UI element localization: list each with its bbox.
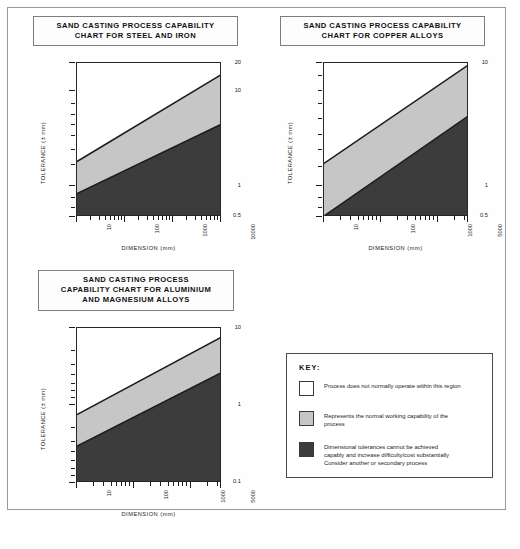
chart-title-line-1: SAND CASTING PROCESS xyxy=(41,275,231,285)
chart-title-line-2: CHART FOR COPPER ALLOYS xyxy=(283,31,482,41)
page-frame: SAND CASTING PROCESS CAPABILITY CHART FO… xyxy=(7,7,506,510)
x-axis-title: DIMENSION (mm) xyxy=(323,245,468,251)
chart-title-steel-and-iron: SAND CASTING PROCESS CAPABILITY CHART FO… xyxy=(33,16,238,46)
xtick-label: 10000 xyxy=(250,224,256,250)
key-item-line: Consider another or secondary process xyxy=(324,459,449,467)
capability-regions-steel-and-iron xyxy=(77,63,221,216)
capability-regions-copper-alloys xyxy=(324,63,468,216)
ytick-label: 10 xyxy=(197,324,241,330)
key-item-text: Process does not normally operate within… xyxy=(324,381,461,390)
ytick-label: 0.5 xyxy=(444,212,488,218)
key-item-line: Represents the normal working capability… xyxy=(324,412,448,420)
chart-title-copper-alloys: SAND CASTING PROCESS CAPABILITY CHART FO… xyxy=(280,16,485,46)
chart-title-aluminium-and-magnesium-alloys: SAND CASTING PROCESS CAPABILITY CHART FO… xyxy=(38,270,234,311)
key-heading: KEY: xyxy=(299,363,321,372)
key-item-dark-gray: Dimensional tolerances cannot be achieve… xyxy=(299,442,449,468)
plot-area-copper-alloys xyxy=(323,62,468,216)
y-axis-title: TOLERANCE (± mm) xyxy=(40,122,46,184)
key-item-white: Process does not normally operate within… xyxy=(299,381,461,396)
ytick-label: 1 xyxy=(197,182,241,188)
ytick-label: 0.5 xyxy=(197,212,241,218)
chart-panel-steel-and-iron: SAND CASTING PROCESS CAPABILITY CHART FO… xyxy=(26,16,241,256)
y-axis-title: TOLERANCE (± mm) xyxy=(287,122,293,184)
ytick-label: 20 xyxy=(197,59,241,65)
key-item-light-gray: Represents the normal working capability… xyxy=(299,411,448,428)
key-item-line: process xyxy=(324,420,448,428)
chart-title-line-1: SAND CASTING PROCESS CAPABILITY xyxy=(36,21,235,31)
plot-area-steel-and-iron xyxy=(76,62,221,216)
xtick-label: 5000 xyxy=(497,224,503,250)
x-axis-title: DIMENSION (mm) xyxy=(76,511,221,517)
chart-title-line-2: CAPABILITY CHART FOR ALUMINIUM xyxy=(41,285,231,295)
swatch-dark-gray-icon xyxy=(299,442,314,457)
ytick-label: 10 xyxy=(444,59,488,65)
chart-panel-copper-alloys: SAND CASTING PROCESS CAPABILITY CHART FO… xyxy=(273,16,488,256)
y-axis-title: TOLERANCE (± mm) xyxy=(40,388,46,450)
chart-panel-aluminium-and-magnesium-alloys: SAND CASTING PROCESS CAPABILITY CHART FO… xyxy=(26,270,241,510)
ytick-label: 1 xyxy=(444,182,488,188)
swatch-white-icon xyxy=(299,381,314,396)
ytick-label: 0.1 xyxy=(197,478,241,484)
ytick-label: 1 xyxy=(197,401,241,407)
key-item-text: Represents the normal working capability… xyxy=(324,411,448,428)
ytick-label: 10 xyxy=(197,87,241,93)
chart-title-line-1: SAND CASTING PROCESS CAPABILITY xyxy=(283,21,482,31)
x-axis-title: DIMENSION (mm) xyxy=(76,245,221,251)
xtick-label: 5000 xyxy=(250,490,256,516)
key-item-line: Process does not normally operate within… xyxy=(324,382,461,390)
key-box: KEY: Process does not normally operate w… xyxy=(286,353,493,478)
chart-title-line-3: AND MAGNESIUM ALLOYS xyxy=(41,295,231,305)
key-item-line: Dimensional tolerances cannot be achieve… xyxy=(324,443,449,451)
key-item-line: capably and increase difficulty/cost sub… xyxy=(324,451,449,459)
chart-title-line-2: CHART FOR STEEL AND IRON xyxy=(36,31,235,41)
key-item-text: Dimensional tolerances cannot be achieve… xyxy=(324,442,449,468)
swatch-light-gray-icon xyxy=(299,411,314,426)
